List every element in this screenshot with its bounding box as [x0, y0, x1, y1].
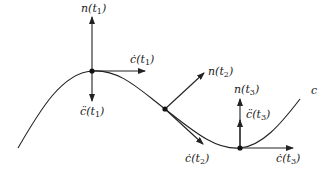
label-fn: ċ	[276, 152, 282, 165]
point-t2	[162, 106, 167, 111]
label-acceleration-t3: c̈(t3)	[246, 109, 270, 122]
label-acceleration-t1: c̈(t1)	[80, 106, 104, 119]
label-fn: n	[208, 65, 215, 78]
label-sub: 1	[95, 110, 100, 119]
normal-vector-t2	[165, 73, 204, 109]
label-sub: 2	[224, 70, 229, 79]
label-sub: 3	[291, 157, 296, 166]
diagram-canvas: n(t1) ċ(t1) c̈(t1) n(t2) ċ(t2) n(t3) c̈(…	[0, 0, 329, 178]
point-t3	[237, 145, 242, 150]
label-fn: c̈	[246, 108, 252, 121]
label-normal-t1: n(t1)	[81, 3, 106, 16]
label-sub: 3	[250, 88, 255, 97]
label-tangent-t2: ċ(t2)	[185, 153, 209, 166]
label-sub: 1	[145, 58, 150, 67]
label-sub: 1	[97, 7, 102, 16]
label-normal-t3: n(t3)	[234, 84, 259, 97]
label-fn: n	[81, 2, 88, 15]
point-t1	[89, 68, 94, 73]
label-normal-t2: n(t2)	[208, 66, 233, 79]
label-tangent-t1: ċ(t1)	[130, 54, 154, 67]
label-curve-c: c	[311, 85, 317, 96]
label-sub: 2	[200, 157, 205, 166]
label-sub: 3	[261, 113, 266, 122]
label-fn: ċ	[185, 152, 191, 165]
label-fn: n	[234, 83, 241, 96]
label-tangent-t3: ċ(t3)	[276, 153, 300, 166]
label-fn: ċ	[130, 53, 136, 66]
label-fn: c̈	[80, 105, 86, 118]
tangent-vector-t2	[165, 109, 203, 144]
